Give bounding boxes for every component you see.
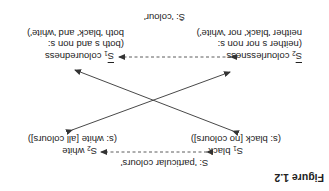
- contradiction-arrow-2: [72, 72, 230, 130]
- semiotic-square-figure: Figure 1.2 S: 'particular colours' S1 bl…: [0, 0, 329, 191]
- diagram-arrows: [0, 0, 329, 191]
